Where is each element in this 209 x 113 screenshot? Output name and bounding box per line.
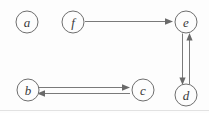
node-a[interactable]: a xyxy=(16,11,38,33)
node-b-label: b xyxy=(25,83,32,98)
node-b[interactable]: b xyxy=(17,79,39,101)
graph-diagram-canvas: a f e b c d xyxy=(0,0,209,113)
node-d-label: d xyxy=(183,88,190,103)
edge-f-to-e xyxy=(85,18,173,25)
node-c[interactable]: c xyxy=(132,79,154,101)
edge-d-to-e-arrowhead xyxy=(186,33,192,41)
node-e[interactable]: e xyxy=(175,11,197,33)
node-f[interactable]: f xyxy=(62,11,84,33)
edge-e-to-d xyxy=(179,34,185,86)
node-d[interactable]: d xyxy=(175,84,197,106)
edge-f-to-e-arrowhead xyxy=(165,18,173,25)
edge-c-to-b xyxy=(37,90,130,97)
node-e-label: e xyxy=(183,15,189,30)
graph-svg: a f e b c d xyxy=(0,0,209,113)
edge-d-to-e xyxy=(186,33,192,84)
node-a-label: a xyxy=(24,15,31,30)
edge-b-to-c xyxy=(37,84,130,91)
node-c-label: c xyxy=(140,83,146,98)
edge-b-to-c-arrowhead xyxy=(122,84,130,91)
